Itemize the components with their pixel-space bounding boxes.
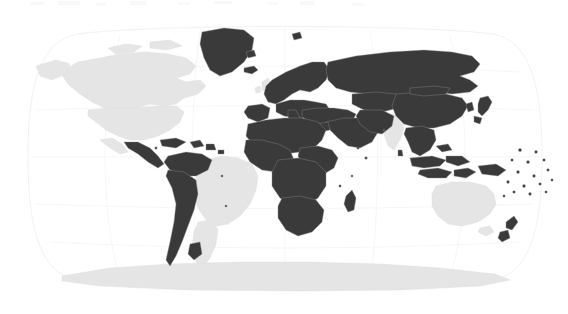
map-svg (0, 0, 568, 314)
world-choropleth-map (0, 0, 568, 314)
